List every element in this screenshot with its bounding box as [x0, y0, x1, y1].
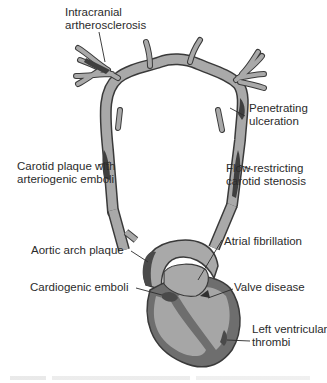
label-left-ventricular-thrombi: Left ventricular thrombi [252, 323, 327, 349]
label-valve-disease: Valve disease [234, 281, 305, 294]
figure-caption-cutoff [10, 376, 310, 380]
label-flow-restricting-stenosis: Flow restricting carotid stenosis [226, 162, 306, 188]
label-atrial-fibrillation: Atrial fibrillation [224, 235, 302, 248]
label-cardiogenic-emboli: Cardiogenic emboli [30, 281, 128, 294]
label-aortic-arch-plaque: Aortic arch plaque [31, 244, 124, 257]
label-penetrating-ulceration: Penetrating ulceration [249, 102, 308, 128]
label-intracranial-atherosclerosis: Intracranial artherosclerosis [65, 6, 146, 32]
heart-and-aorta [113, 205, 240, 367]
label-carotid-plaque: Carotid plaque with arteriogenic emboli [17, 160, 115, 186]
